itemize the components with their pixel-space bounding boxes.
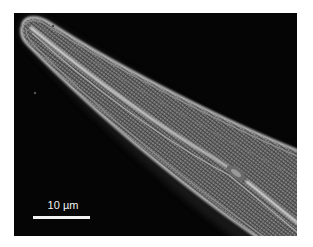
scale-bar [33,216,90,219]
micrograph: 10 µm [14,13,297,236]
scale-bar-label: 10 µm [41,199,85,211]
